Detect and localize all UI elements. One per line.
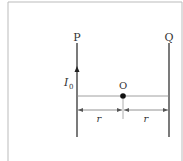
label-current-subscript: 0 (69, 83, 73, 91)
label-q: Q (164, 31, 173, 44)
frame-border (8, 2, 182, 161)
arrowhead-icon (124, 108, 129, 112)
label-r-left: r (97, 113, 103, 124)
label-r-right: r (144, 113, 150, 124)
label-o: O (119, 80, 127, 91)
current-arrow-icon (75, 66, 80, 72)
diagram-canvas: P Q I 0 O r r (0, 0, 183, 161)
point-o-dot (120, 93, 126, 99)
arrowhead-icon (78, 108, 83, 112)
arrowhead-icon (163, 108, 168, 112)
label-p: P (73, 31, 81, 44)
arrowhead-icon (117, 108, 122, 112)
